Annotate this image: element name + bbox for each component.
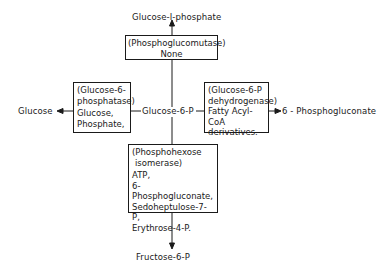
enzyme-name-line2: isomerase) bbox=[132, 158, 214, 169]
inhibitor-line2: Phosphate, bbox=[77, 119, 127, 130]
inhibitor-line1: Glucose, bbox=[77, 108, 127, 119]
enzyme-name-line2: phosphatase) bbox=[77, 96, 127, 107]
product-fructose-6-p: Fructose-6-P bbox=[136, 252, 190, 262]
enzyme-box-glucose-6-phosphatase: (Glucose-6- phosphatase) Glucose, Phosph… bbox=[73, 82, 131, 133]
product-6-phosphogluconate: 6 - Phosphogluconate bbox=[282, 106, 376, 116]
enzyme-box-phosphohexose-isomerase: (Phosphohexose isomerase) ATP, 6-Phospho… bbox=[128, 144, 218, 213]
enzyme-box-phosphoglucomutase: (Phosphoglucomutase) None bbox=[125, 35, 218, 60]
inhibitor-line1: Fatty Acyl-CoA bbox=[208, 106, 265, 127]
product-glucose-1-phosphate: Glucose-I-phosphate bbox=[132, 12, 221, 22]
product-glucose: Glucose bbox=[18, 106, 53, 116]
enzyme-name: (Phosphoglucomutase) bbox=[128, 38, 215, 49]
inhibitor-line4: Erythrose-4-P. bbox=[132, 223, 214, 234]
central-metabolite: Glucose-6-P bbox=[142, 106, 194, 116]
enzyme-name-line1: (Phosphohexose bbox=[132, 147, 214, 158]
inhibitor-line2: 6-Phosphogluconate, bbox=[132, 181, 214, 202]
inhibitor-line1: ATP, bbox=[132, 170, 214, 181]
inhibitors: None bbox=[128, 49, 215, 60]
enzyme-box-g6p-dehydrogenase: (Glucose-6-P dehydrogenase) Fatty Acyl-C… bbox=[204, 82, 269, 133]
inhibitor-line3: Sedoheptulose-7-P, bbox=[132, 202, 214, 223]
inhibitor-line2: derivatives. bbox=[208, 127, 265, 138]
enzyme-name-line2: dehydrogenase) bbox=[208, 96, 265, 107]
enzyme-name-line1: (Glucose-6- bbox=[77, 85, 127, 96]
enzyme-name-line1: (Glucose-6-P bbox=[208, 85, 265, 96]
